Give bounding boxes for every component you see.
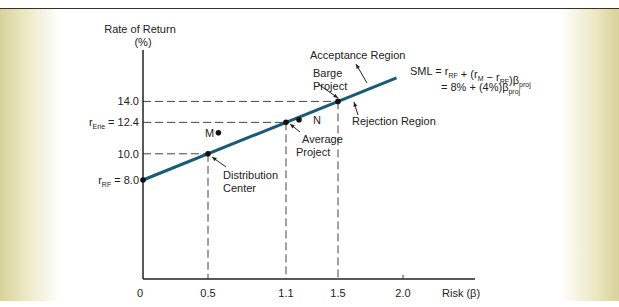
y-tick-label: 10.0 — [118, 148, 139, 160]
m-label: M — [205, 127, 214, 139]
rejection-region-label: Rejection Region — [352, 115, 436, 127]
acceptance-region-label: Acceptance Region — [310, 49, 405, 61]
sml-line — [143, 78, 397, 180]
point-n — [296, 117, 302, 123]
rejection-arrow-head — [353, 102, 357, 107]
x-tick-label: 2.0 — [395, 287, 410, 299]
y-axis-label-line2: (%) — [134, 36, 151, 48]
rf-point — [140, 177, 146, 183]
distribution-arrow-head — [212, 157, 217, 161]
point-m — [216, 130, 222, 136]
x-tick-label: 1.5 — [330, 287, 345, 299]
point-barge-project — [335, 99, 341, 105]
x-tick-label: 0.5 — [200, 287, 215, 299]
sml-chart: Rate of Return (%) 14.0rErie = 12.410.0r… — [0, 0, 619, 307]
distribution-label-1: Distribution — [223, 169, 278, 181]
point-average-project — [283, 120, 289, 126]
barge-label-1: Barge — [313, 67, 342, 79]
x-tick-label: 1.1 — [278, 287, 293, 299]
y-axis-label-line1: Rate of Return — [104, 23, 176, 35]
n-label: N — [313, 114, 321, 126]
x-axis-label: Risk (β) — [442, 287, 480, 299]
distribution-label-2: Center — [223, 182, 256, 194]
y-tick-label: 14.0 — [118, 95, 139, 107]
y-tick-label: rErie = 12.4 — [89, 116, 139, 130]
x-tick-label: 0 — [137, 287, 143, 299]
average-label-2: Project — [296, 146, 330, 158]
average-label-1: Average — [302, 133, 343, 145]
barge-label-2: Project — [313, 80, 347, 92]
point-distribution-center — [205, 151, 211, 157]
y-tick-label: rRF = 8.0 — [98, 174, 139, 188]
barge-arrow-head — [333, 94, 338, 98]
